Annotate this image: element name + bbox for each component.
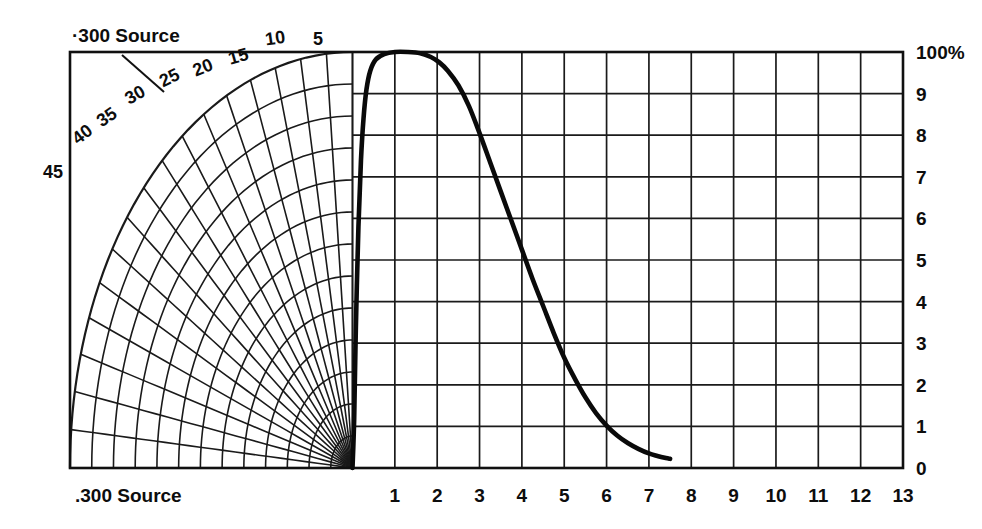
y-tick-label: 100% [916, 42, 965, 63]
x-tick-label: 7 [644, 485, 655, 506]
y-tick-label: 8 [916, 125, 927, 146]
polar-angle-label: 10 [264, 27, 287, 50]
y-tick-label: 9 [916, 84, 927, 105]
x-tick-label: 8 [686, 485, 697, 506]
y-tick-label: 2 [916, 375, 927, 396]
x-tick-label: 9 [728, 485, 739, 506]
y-tick-label: 7 [916, 167, 927, 188]
polar-angle-label: 45 [43, 162, 63, 182]
x-tick-label: 12 [850, 485, 871, 506]
y-tick-label: 5 [916, 250, 927, 271]
x-tick-label: 4 [517, 485, 528, 506]
chart-figure: 12345678910111213 100%9876543210 5101520… [0, 0, 982, 529]
x-tick-label: 6 [601, 485, 612, 506]
chart-svg: 12345678910111213 100%9876543210 5101520… [0, 0, 982, 529]
x-tick-label: 13 [892, 485, 913, 506]
y-tick-label: 1 [916, 416, 927, 437]
figure-background [0, 0, 982, 529]
y-tick-label: 4 [916, 292, 927, 313]
y-tick-label: 0 [916, 458, 927, 479]
x-tick-label: 11 [808, 485, 829, 506]
x-tick-label: 5 [559, 485, 570, 506]
y-tick-label: 6 [916, 208, 927, 229]
x-tick-label: 2 [432, 485, 443, 506]
x-tick-label: 1 [390, 485, 401, 506]
x-tick-label: 10 [765, 485, 786, 506]
polar-angle-label: 5 [313, 29, 323, 49]
x-tick-label: 3 [474, 485, 485, 506]
source-label-bottom: .300 Source [75, 485, 182, 506]
y-tick-label: 3 [916, 333, 927, 354]
source-label-top: ·300 Source [72, 25, 180, 46]
